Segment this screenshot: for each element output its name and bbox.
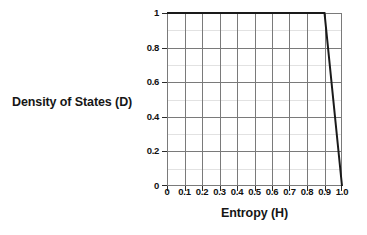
y-tick-label: 0.4: [121, 111, 159, 122]
y-tick-mark: [162, 13, 167, 14]
x-axis-title: Entropy (H): [167, 206, 342, 220]
y-tick-label: 0.2: [121, 145, 159, 156]
y-tick-mark: [162, 117, 167, 118]
y-axis-title: Density of States (D): [12, 95, 162, 109]
y-tick-mark: [162, 82, 167, 83]
y-tick-mark: [162, 48, 167, 49]
x-tick-label: 1.0: [327, 186, 357, 197]
chart-figure: Density of States (D) 00.10.20.30.40.50.…: [0, 0, 367, 235]
y-tick-label: 1: [121, 7, 159, 18]
y-tick-mark: [162, 151, 167, 152]
y-tick-label: 0.8: [121, 42, 159, 53]
plot-area: [167, 13, 342, 186]
y-tick-label: 0.6: [121, 76, 159, 87]
data-series-line: [167, 13, 342, 186]
y-tick-label: 0: [121, 180, 159, 191]
